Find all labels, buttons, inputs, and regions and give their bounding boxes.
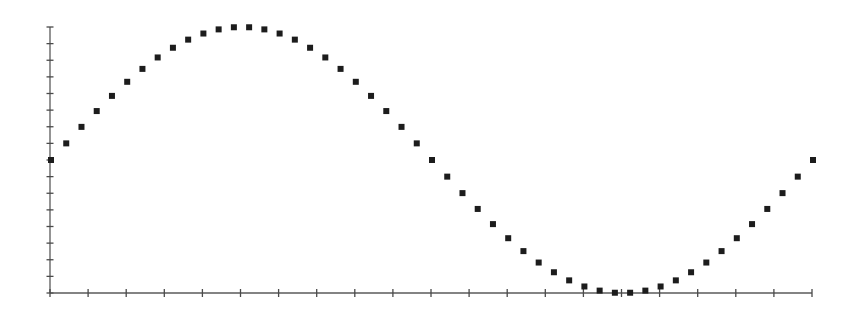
data-point — [277, 31, 283, 37]
data-point — [63, 140, 69, 146]
data-point — [200, 31, 206, 37]
data-point — [48, 157, 54, 163]
data-point — [78, 124, 84, 130]
data-point — [734, 235, 740, 241]
data-point — [749, 221, 755, 227]
data-point — [459, 190, 465, 196]
data-point — [383, 108, 389, 114]
data-point — [551, 269, 557, 275]
data-point — [170, 45, 176, 51]
data-point — [124, 79, 130, 85]
chart — [0, 0, 862, 323]
data-point — [246, 24, 252, 30]
scatter-plot — [0, 0, 862, 323]
data-points — [48, 24, 816, 295]
data-point — [642, 288, 648, 294]
data-point — [185, 37, 191, 43]
data-point — [475, 206, 481, 212]
data-point — [444, 174, 450, 180]
data-point — [673, 277, 679, 283]
data-point — [795, 174, 801, 180]
data-point — [764, 206, 770, 212]
x-axis — [50, 289, 812, 297]
data-point — [399, 124, 405, 130]
data-point — [414, 140, 420, 146]
data-point — [505, 235, 511, 241]
data-point — [612, 290, 618, 296]
data-point — [322, 54, 328, 60]
data-point — [658, 283, 664, 289]
data-point — [231, 24, 237, 30]
data-point — [139, 66, 145, 72]
data-point — [429, 157, 435, 163]
data-point — [368, 93, 374, 99]
data-point — [780, 190, 786, 196]
data-point — [581, 283, 587, 289]
data-point — [597, 288, 603, 294]
data-point — [338, 66, 344, 72]
data-point — [688, 269, 694, 275]
data-point — [490, 221, 496, 227]
data-point — [536, 260, 542, 266]
data-point — [703, 260, 709, 266]
data-point — [520, 248, 526, 254]
data-point — [353, 79, 359, 85]
data-point — [719, 248, 725, 254]
data-point — [109, 93, 115, 99]
data-point — [566, 277, 572, 283]
data-point — [261, 26, 267, 32]
data-point — [292, 37, 298, 43]
data-point — [307, 45, 313, 51]
data-point — [155, 54, 161, 60]
data-point — [94, 108, 100, 114]
data-point — [216, 26, 222, 32]
data-point — [627, 290, 633, 296]
data-point — [810, 157, 816, 163]
